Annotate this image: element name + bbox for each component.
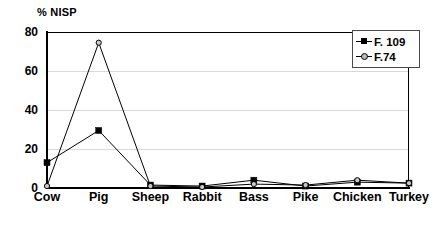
y-tick-label-20: 20: [25, 142, 38, 156]
x-tick-label-rabbit: Rabbit: [183, 190, 222, 204]
data-point-marker-square[interactable]: [96, 127, 102, 133]
chart-axis-title: % NISP: [37, 6, 77, 18]
x-tick-label-bass: Bass: [239, 190, 269, 204]
x-axis-tick-labels: CowPigSheepRabbitBassPikeChickenTurkey: [47, 190, 409, 212]
x-tick-label-chicken: Chicken: [333, 190, 382, 204]
data-point-marker-circle[interactable]: [406, 181, 411, 186]
data-point-marker-circle[interactable]: [96, 40, 101, 45]
x-tick-label-cow: Cow: [34, 190, 60, 204]
data-point-marker-circle[interactable]: [303, 182, 308, 187]
data-point-marker-square[interactable]: [44, 160, 50, 166]
data-point-marker-circle[interactable]: [44, 183, 49, 188]
data-point-marker-circle[interactable]: [200, 184, 205, 189]
data-point-marker-circle[interactable]: [148, 183, 153, 188]
legend-item-f109[interactable]: F. 109: [356, 34, 415, 49]
data-point-marker-circle[interactable]: [251, 182, 256, 187]
y-tick-label-80: 80: [25, 25, 38, 39]
y-axis-tick-labels: 80 60 40 20 0: [10, 32, 42, 188]
x-tick-label-turkey: Turkey: [389, 190, 429, 204]
legend-label-f74: F.74: [374, 51, 396, 63]
y-tick-label-60: 60: [25, 64, 38, 78]
x-tick-label-pike: Pike: [293, 190, 319, 204]
x-tick-label-sheep: Sheep: [132, 190, 170, 204]
legend-marker-open-circle-icon: [356, 51, 372, 62]
legend-marker-filled-square-icon: [356, 36, 372, 47]
legend-label-f109: F. 109: [374, 36, 405, 48]
y-tick-label-40: 40: [25, 103, 38, 117]
chart-legend: F. 109 F.74: [352, 30, 420, 68]
chart-container: % NISP 80 60 40 20 0 CowPigSheepRabbitBa…: [0, 0, 444, 228]
x-tick-label-pig: Pig: [89, 190, 108, 204]
series-polyline: [47, 130, 409, 186]
data-point-marker-circle[interactable]: [355, 178, 360, 183]
legend-item-f74[interactable]: F.74: [356, 49, 415, 64]
